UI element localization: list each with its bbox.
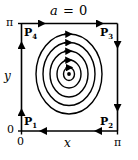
y-axis-label: y: [4, 70, 11, 82]
point-label-p4-subscript: 4: [32, 32, 37, 41]
point-label-p1-subscript: 1: [32, 121, 37, 130]
point-label-p4: P4: [24, 27, 37, 40]
orbit-direction-arrows: [64, 34, 70, 68]
x-axis-label: x: [64, 137, 71, 149]
figure-title: a = 0: [50, 4, 88, 17]
title-equals-value: = 0: [58, 3, 87, 18]
y-axis-tick-max-label: π: [6, 17, 13, 28]
x-axis-tick-max-label: π: [114, 137, 121, 148]
y-axis-tick-min-label: 0: [7, 124, 14, 135]
point-label-p3: P3: [100, 27, 113, 40]
point-label-p2-subscript: 2: [108, 121, 113, 130]
center-fixed-point-dot: [67, 72, 71, 76]
phase-portrait-figure: a = 0 π 0 0 π x y P1 P2 P3 P4: [0, 0, 138, 160]
point-label-p2: P2: [100, 116, 113, 129]
x-axis-tick-min-label: 0: [17, 136, 24, 147]
point-label-p3-subscript: 3: [108, 32, 113, 41]
point-label-p1: P1: [24, 116, 37, 129]
